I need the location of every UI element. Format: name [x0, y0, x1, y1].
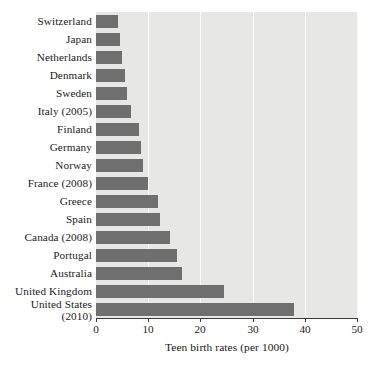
- y-axis-label-denmark: Denmark: [0, 69, 92, 81]
- y-axis-label-main: Norway: [55, 159, 92, 171]
- y-axis-label-netherlands: Netherlands: [0, 51, 92, 63]
- bar-row: [96, 195, 357, 208]
- bar-row: [96, 87, 357, 100]
- y-axis-label-australia: Australia: [0, 267, 92, 279]
- bar-australia: [96, 267, 182, 280]
- bar-row: [96, 231, 357, 244]
- bar-sweden: [96, 87, 127, 100]
- bar-canada-2008: [96, 231, 170, 244]
- y-axis-label-canada-2008: Canada (2008): [0, 231, 92, 243]
- teen-birth-rates-bar-chart: SwitzerlandJapanNetherlandsDenmarkSweden…: [0, 0, 373, 366]
- y-axis-label-italy-2005: Italy (2005): [0, 105, 92, 117]
- y-axis-label-united-kingdom: United Kingdom: [0, 285, 92, 297]
- y-axis-label-main: Portugal: [53, 249, 92, 261]
- x-tick-label-10: 10: [133, 323, 163, 336]
- x-tick-label-0: 0: [81, 323, 111, 336]
- bar-norway: [96, 159, 143, 172]
- bar-row: [96, 33, 357, 46]
- plot-area: [96, 12, 357, 318]
- x-tick-30: [253, 318, 254, 322]
- bar-row: [96, 177, 357, 190]
- y-axis-label-main: Japan: [66, 33, 92, 45]
- bar-denmark: [96, 69, 125, 82]
- y-axis-label-main: Canada (2008): [25, 231, 92, 243]
- y-axis-label-finland: Finland: [0, 123, 92, 135]
- y-axis-label-main: Spain: [66, 213, 92, 225]
- bar-japan: [96, 33, 120, 46]
- y-axis-label-main: Australia: [50, 267, 92, 279]
- x-tick-20: [200, 318, 201, 322]
- bar-united-kingdom: [96, 285, 224, 298]
- y-axis-label-japan: Japan: [0, 33, 92, 45]
- y-axis-label-greece: Greece: [0, 195, 92, 207]
- bar-row: [96, 105, 357, 118]
- x-tick-label-20: 20: [185, 323, 215, 336]
- bar-switzerland: [96, 15, 118, 28]
- y-axis-label-main: Sweden: [56, 87, 92, 99]
- x-axis-title: Teen birth rates (per 1000): [96, 341, 358, 353]
- bar-row: [96, 51, 357, 64]
- bar-row: [96, 159, 357, 172]
- bar-portugal: [96, 249, 177, 262]
- bar-row: [96, 15, 357, 28]
- y-axis-label-main: United Kingdom: [15, 285, 92, 297]
- y-axis-label-main: Netherlands: [37, 51, 92, 63]
- gridline-50: [357, 12, 358, 318]
- y-axis-label-main: Denmark: [50, 69, 92, 81]
- bar-spain: [96, 213, 160, 226]
- bar-italy-2005: [96, 105, 131, 118]
- y-axis-label-main: Switzerland: [37, 15, 92, 27]
- y-axis-label-spain: Spain: [0, 213, 92, 225]
- y-axis-category-labels: SwitzerlandJapanNetherlandsDenmarkSweden…: [0, 12, 92, 318]
- y-axis-label-main: Germany: [50, 141, 92, 153]
- x-axis-line: [96, 318, 358, 319]
- y-axis-label-france-2008: France (2008): [0, 177, 92, 189]
- y-axis-label-switzerland: Switzerland: [0, 15, 92, 27]
- bar-row: [96, 303, 357, 316]
- bar-row: [96, 69, 357, 82]
- y-axis-label-sweden: Sweden: [0, 87, 92, 99]
- bar-row: [96, 267, 357, 280]
- x-tick-50: [357, 318, 358, 322]
- y-axis-label-main: Finland: [57, 123, 92, 135]
- x-tick-0: [96, 318, 97, 322]
- bar-row: [96, 213, 357, 226]
- x-tick-40: [305, 318, 306, 322]
- y-axis-label-main: Greece: [60, 195, 92, 207]
- bar-row: [96, 249, 357, 262]
- bar-united-states-2010: [96, 303, 294, 316]
- y-axis-label-main: United States: [31, 298, 92, 310]
- bar-france-2008: [96, 177, 148, 190]
- y-axis-label-main: Italy (2005): [38, 105, 92, 117]
- y-axis-label-main: France (2008): [28, 177, 92, 189]
- y-axis-label-united-states: United States(2010): [0, 298, 92, 323]
- bar-finland: [96, 123, 139, 136]
- x-tick-label-50: 50: [342, 323, 372, 336]
- bar-row: [96, 141, 357, 154]
- x-tick-10: [148, 318, 149, 322]
- bar-netherlands: [96, 51, 122, 64]
- y-axis-label-portugal: Portugal: [0, 249, 92, 261]
- bar-greece: [96, 195, 158, 208]
- y-axis-label-year: (2010): [0, 310, 92, 323]
- y-axis-label-germany: Germany: [0, 141, 92, 153]
- bar-germany: [96, 141, 141, 154]
- bar-row: [96, 285, 357, 298]
- x-tick-label-40: 40: [290, 323, 320, 336]
- bar-row: [96, 123, 357, 136]
- y-axis-label-norway: Norway: [0, 159, 92, 171]
- x-tick-label-30: 30: [238, 323, 268, 336]
